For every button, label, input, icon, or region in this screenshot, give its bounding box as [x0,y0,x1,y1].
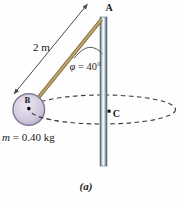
rod [100,17,107,166]
string-length-label: 2 m [33,41,50,53]
mass-value: = 0.40 kg [10,131,55,143]
figure-caption: (a) [80,180,93,193]
conical-pendulum-diagram: A B C 2 m φ = 40° m = 0.40 kg (a) [0,0,184,205]
angle-value: = 40° [75,61,101,72]
point-c-dot [108,110,111,113]
ball-center-dot [27,107,31,111]
point-b-label: B [25,95,31,105]
dimension-line [16,7,86,92]
point-c-label: C [113,108,120,119]
mass-label: m = 0.40 kg [2,131,55,143]
mass-symbol: m [2,131,10,143]
point-a-label: A [106,2,114,13]
figure-container: A B C 2 m φ = 40° m = 0.40 kg (a) [0,0,184,205]
angle-label: φ = 40° [70,61,102,72]
